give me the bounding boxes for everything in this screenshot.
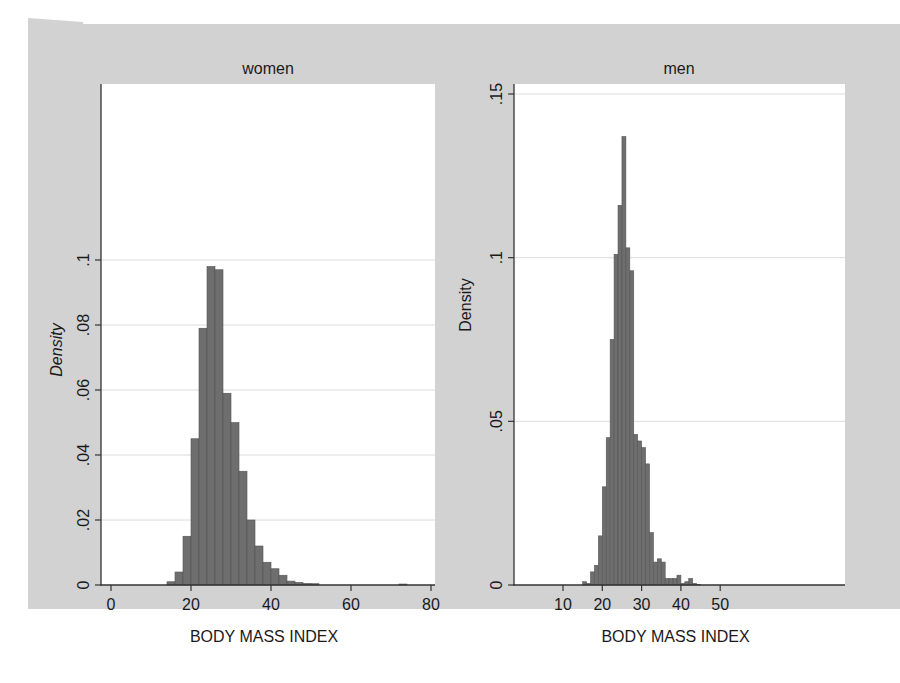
panel-men: 0.05.1.151020304050menBODY MASS INDEXDen… — [457, 60, 845, 645]
histogram-bar — [618, 205, 622, 585]
plot-area — [101, 84, 435, 585]
histogram-bar — [223, 393, 231, 585]
y-tick-label: .1 — [75, 253, 92, 266]
histogram-bar — [610, 340, 614, 586]
histogram-bar — [626, 248, 630, 585]
histogram-bar — [649, 533, 653, 585]
histogram-bar — [199, 328, 207, 585]
histogram-bar — [239, 471, 247, 585]
histogram-bar — [191, 439, 199, 585]
x-tick-label: 20 — [182, 596, 200, 613]
histogram-bar — [279, 575, 287, 585]
histogram-bar — [661, 562, 665, 585]
histogram-bar — [602, 487, 606, 585]
histogram-bar — [606, 438, 610, 585]
x-axis-title: BODY MASS INDEX — [190, 628, 339, 645]
x-tick-label: 20 — [593, 596, 611, 613]
y-tick-label: .08 — [75, 314, 92, 336]
histogram-bar — [646, 464, 650, 585]
histogram-bar — [263, 562, 271, 585]
histogram-bar — [215, 270, 223, 585]
y-tick-label: .02 — [75, 509, 92, 531]
histogram-bar — [183, 536, 191, 585]
x-tick-label: 30 — [633, 596, 651, 613]
histogram-bar — [591, 572, 595, 585]
histogram-bar — [657, 559, 661, 585]
panel-title: men — [663, 60, 694, 77]
histogram-bar — [614, 254, 618, 585]
histogram-bar — [689, 578, 693, 585]
histogram-bar — [630, 271, 634, 585]
y-tick-label: 0 — [488, 580, 505, 589]
histogram-figure: 0.02.04.06.08.1020406080womenBODY MASS I… — [0, 0, 900, 683]
histogram-bar — [642, 448, 646, 585]
histogram-bar — [665, 578, 669, 585]
panel-women: 0.02.04.06.08.1020406080womenBODY MASS I… — [48, 60, 440, 645]
histogram-bar — [271, 569, 279, 585]
x-tick-label: 60 — [342, 596, 360, 613]
histogram-bar — [653, 562, 657, 585]
x-tick-label: 10 — [554, 596, 572, 613]
x-tick-label: 50 — [711, 596, 729, 613]
histogram-bar — [634, 434, 638, 585]
y-axis-title: Density — [48, 322, 65, 376]
histogram-bar — [255, 546, 263, 585]
plot-area — [514, 84, 845, 585]
histogram-bar — [673, 578, 677, 585]
panel-title: women — [241, 60, 294, 77]
histogram-bar — [247, 520, 255, 585]
y-tick-label: .15 — [488, 83, 505, 105]
histogram-bar — [598, 536, 602, 585]
histogram-bar — [175, 572, 183, 585]
y-tick-label: .06 — [75, 379, 92, 401]
histogram-bar — [231, 423, 239, 586]
x-tick-label: 40 — [672, 596, 690, 613]
y-axis-title: Density — [457, 278, 474, 331]
y-tick-label: 0 — [75, 580, 92, 589]
x-tick-label: 80 — [422, 596, 440, 613]
histogram-bar — [638, 441, 642, 585]
y-tick-label: .04 — [75, 444, 92, 466]
x-axis-title: BODY MASS INDEX — [601, 628, 750, 645]
x-tick-label: 40 — [262, 596, 280, 613]
y-tick-label: .05 — [488, 410, 505, 432]
histogram-bar — [622, 137, 626, 585]
x-tick-label: 0 — [107, 596, 116, 613]
y-tick-label: .1 — [488, 251, 505, 264]
histogram-bar — [669, 578, 673, 585]
histogram-bar — [594, 565, 598, 585]
histogram-bar — [207, 267, 215, 586]
histogram-bar — [677, 575, 681, 585]
